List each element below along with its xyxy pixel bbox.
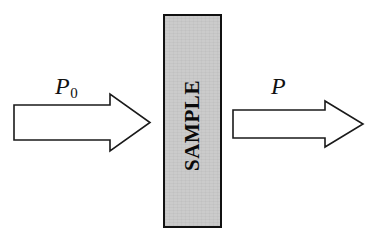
transmitted-power-symbol: P bbox=[271, 73, 286, 99]
transmitted-power-label: P bbox=[271, 74, 286, 98]
incident-power-subscript: 0 bbox=[70, 85, 78, 101]
incident-power-symbol: P bbox=[55, 73, 70, 99]
sample-block bbox=[163, 14, 222, 228]
transmitted-arrow-shape bbox=[233, 101, 363, 147]
incident-power-label: P0 bbox=[55, 74, 77, 98]
transmission-diagram: SAMPLE P0 P bbox=[0, 0, 374, 238]
